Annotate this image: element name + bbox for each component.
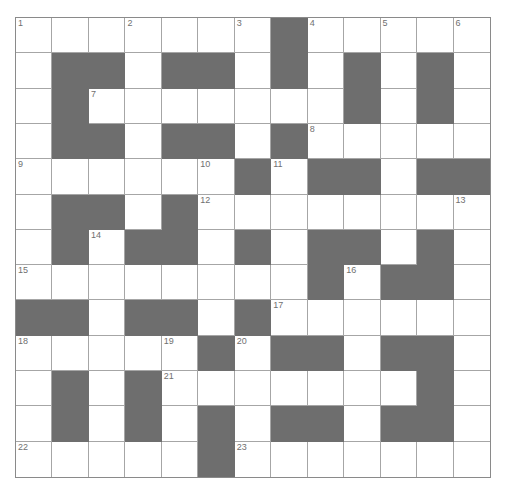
answer-cell[interactable]: 10 [198, 159, 234, 194]
answer-cell[interactable]: 22 [16, 442, 52, 477]
answer-cell[interactable] [308, 195, 344, 230]
answer-cell[interactable] [417, 18, 453, 53]
answer-cell[interactable] [381, 371, 417, 406]
answer-cell[interactable] [162, 89, 198, 124]
answer-cell[interactable]: 13 [454, 195, 490, 230]
answer-cell[interactable] [417, 442, 453, 477]
answer-cell[interactable] [52, 18, 88, 53]
answer-cell[interactable]: 2 [125, 18, 161, 53]
answer-cell[interactable] [417, 124, 453, 159]
answer-cell[interactable] [271, 195, 307, 230]
answer-cell[interactable] [344, 371, 380, 406]
answer-cell[interactable] [308, 442, 344, 477]
answer-cell[interactable] [125, 53, 161, 88]
answer-cell[interactable] [198, 265, 234, 300]
answer-cell[interactable] [271, 230, 307, 265]
answer-cell[interactable] [454, 300, 490, 335]
answer-cell[interactable] [162, 265, 198, 300]
answer-cell[interactable] [454, 442, 490, 477]
answer-cell[interactable] [16, 195, 52, 230]
answer-cell[interactable] [198, 18, 234, 53]
answer-cell[interactable] [235, 371, 271, 406]
answer-cell[interactable] [454, 53, 490, 88]
answer-cell[interactable] [381, 300, 417, 335]
answer-cell[interactable] [125, 195, 161, 230]
answer-cell[interactable] [417, 195, 453, 230]
answer-cell[interactable]: 15 [16, 265, 52, 300]
answer-cell[interactable] [52, 442, 88, 477]
answer-cell[interactable] [16, 230, 52, 265]
answer-cell[interactable]: 5 [381, 18, 417, 53]
answer-cell[interactable] [125, 265, 161, 300]
answer-cell[interactable] [381, 53, 417, 88]
answer-cell[interactable] [235, 124, 271, 159]
answer-cell[interactable] [271, 89, 307, 124]
answer-cell[interactable] [125, 159, 161, 194]
answer-cell[interactable] [344, 406, 380, 441]
answer-cell[interactable]: 12 [198, 195, 234, 230]
answer-cell[interactable]: 9 [16, 159, 52, 194]
answer-cell[interactable]: 11 [271, 159, 307, 194]
answer-cell[interactable] [381, 89, 417, 124]
answer-cell[interactable] [162, 442, 198, 477]
answer-cell[interactable] [308, 300, 344, 335]
answer-cell[interactable] [162, 406, 198, 441]
answer-cell[interactable] [89, 300, 125, 335]
answer-cell[interactable] [16, 406, 52, 441]
answer-cell[interactable]: 21 [162, 371, 198, 406]
answer-cell[interactable] [381, 159, 417, 194]
answer-cell[interactable] [162, 159, 198, 194]
answer-cell[interactable] [454, 124, 490, 159]
answer-cell[interactable] [454, 371, 490, 406]
answer-cell[interactable] [89, 265, 125, 300]
answer-cell[interactable] [381, 230, 417, 265]
answer-cell[interactable] [344, 18, 380, 53]
answer-cell[interactable] [454, 406, 490, 441]
answer-cell[interactable] [454, 265, 490, 300]
answer-cell[interactable]: 4 [308, 18, 344, 53]
answer-cell[interactable] [125, 442, 161, 477]
answer-cell[interactable] [16, 53, 52, 88]
answer-cell[interactable]: 8 [308, 124, 344, 159]
answer-cell[interactable] [198, 300, 234, 335]
answer-cell[interactable]: 23 [235, 442, 271, 477]
answer-cell[interactable] [198, 89, 234, 124]
answer-cell[interactable] [16, 124, 52, 159]
answer-cell[interactable] [454, 336, 490, 371]
answer-cell[interactable] [308, 53, 344, 88]
answer-cell[interactable] [89, 159, 125, 194]
answer-cell[interactable] [125, 89, 161, 124]
answer-cell[interactable] [344, 195, 380, 230]
answer-cell[interactable] [198, 371, 234, 406]
answer-cell[interactable] [454, 89, 490, 124]
answer-cell[interactable] [454, 230, 490, 265]
answer-cell[interactable] [89, 371, 125, 406]
answer-cell[interactable] [16, 371, 52, 406]
answer-cell[interactable] [162, 18, 198, 53]
answer-cell[interactable] [381, 442, 417, 477]
answer-cell[interactable]: 3 [235, 18, 271, 53]
answer-cell[interactable]: 18 [16, 336, 52, 371]
answer-cell[interactable] [52, 159, 88, 194]
answer-cell[interactable] [308, 89, 344, 124]
answer-cell[interactable] [89, 336, 125, 371]
answer-cell[interactable]: 14 [89, 230, 125, 265]
answer-cell[interactable]: 20 [235, 336, 271, 371]
answer-cell[interactable] [16, 89, 52, 124]
answer-cell[interactable] [381, 195, 417, 230]
answer-cell[interactable] [271, 265, 307, 300]
answer-cell[interactable] [344, 442, 380, 477]
answer-cell[interactable] [89, 442, 125, 477]
answer-cell[interactable] [381, 124, 417, 159]
answer-cell[interactable] [89, 406, 125, 441]
answer-cell[interactable] [235, 53, 271, 88]
answer-cell[interactable] [344, 336, 380, 371]
answer-cell[interactable] [235, 265, 271, 300]
answer-cell[interactable]: 6 [454, 18, 490, 53]
answer-cell[interactable] [271, 371, 307, 406]
answer-cell[interactable] [52, 265, 88, 300]
answer-cell[interactable]: 17 [271, 300, 307, 335]
answer-cell[interactable] [235, 195, 271, 230]
answer-cell[interactable] [344, 124, 380, 159]
answer-cell[interactable] [271, 442, 307, 477]
